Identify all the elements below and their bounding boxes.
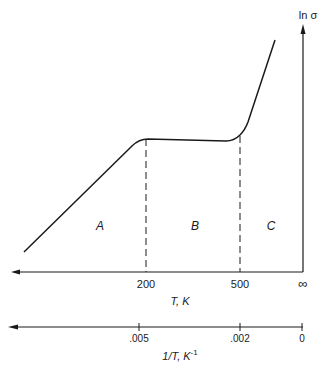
t-tick-200: 200 bbox=[137, 278, 155, 290]
t-tick-500: 500 bbox=[231, 278, 249, 290]
y-axis-label: ln σ bbox=[299, 9, 317, 21]
t-axis-title: T, K bbox=[170, 295, 189, 307]
region-c-label: C bbox=[267, 219, 276, 233]
invT-tick-002-label: .002 bbox=[230, 333, 249, 344]
t-tick-infinity: ∞ bbox=[298, 276, 307, 291]
invT-axis-title: 1/T, K-1 bbox=[162, 348, 197, 362]
region-a-label: A bbox=[96, 219, 104, 233]
chart-canvas bbox=[0, 0, 321, 368]
invT-tick-0-label: 0 bbox=[299, 333, 305, 344]
invT-axis-arrow-icon bbox=[8, 325, 18, 330]
invT-axis-title-sup: -1 bbox=[191, 348, 198, 357]
conductivity-curve bbox=[24, 40, 275, 252]
invT-axis-title-main: 1/T, K bbox=[162, 350, 190, 362]
region-b-label: B bbox=[191, 219, 199, 233]
t-axis-arrow-icon bbox=[11, 270, 20, 275]
y-axis-arrow-icon bbox=[301, 24, 306, 34]
invT-tick-005-label: .005 bbox=[129, 333, 148, 344]
